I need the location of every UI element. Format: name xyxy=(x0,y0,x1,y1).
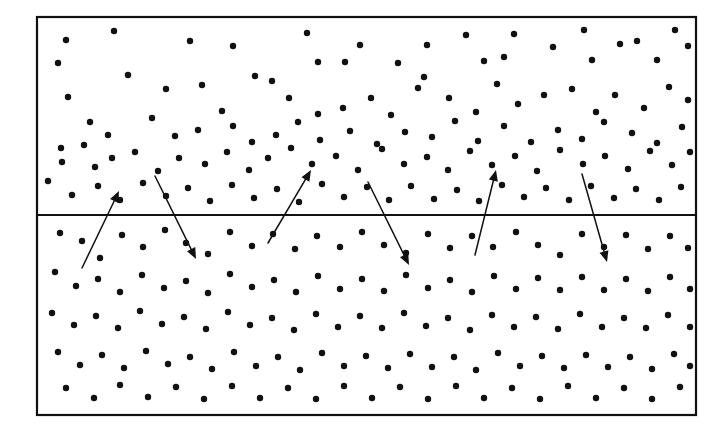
particle-dot xyxy=(539,353,545,359)
particle-dot xyxy=(666,84,672,90)
particle-dot xyxy=(95,276,101,282)
particle-dot xyxy=(271,277,277,283)
particle-dot xyxy=(541,92,547,98)
particle-dot xyxy=(285,385,291,391)
particle-dot xyxy=(671,351,677,357)
particle-dot xyxy=(181,314,187,320)
particle-dot xyxy=(579,136,585,142)
particle-dot xyxy=(445,167,451,173)
particle-dot xyxy=(685,245,691,251)
particle-dot xyxy=(656,197,662,203)
particle-dot xyxy=(202,161,208,167)
particle-dot xyxy=(172,133,178,139)
particle-dot xyxy=(73,283,79,289)
particle-dot xyxy=(297,367,303,373)
particle-dot xyxy=(429,134,435,140)
particle-dot xyxy=(447,245,453,251)
particle-dot xyxy=(423,323,429,329)
particle-dot xyxy=(581,27,587,33)
particle-dot xyxy=(687,149,693,155)
particle-dot xyxy=(407,351,413,357)
particle-dot xyxy=(447,277,453,283)
particle-dot xyxy=(291,327,297,333)
particle-dot xyxy=(69,192,75,198)
particle-dot xyxy=(388,112,394,118)
particle-dot xyxy=(431,196,437,202)
particle-dot xyxy=(249,243,255,249)
particle-dot xyxy=(275,354,281,360)
particle-dot xyxy=(109,155,115,161)
particle-dot xyxy=(205,251,211,257)
particle-dot xyxy=(225,309,231,315)
particle-dot xyxy=(565,383,571,389)
particle-dot xyxy=(533,314,539,320)
particle-dot xyxy=(617,41,623,47)
particle-dot xyxy=(577,311,583,317)
particle-dot xyxy=(579,231,585,237)
particle-dot xyxy=(63,385,69,391)
particle-dot xyxy=(677,384,683,390)
particle-dot xyxy=(623,232,629,238)
particle-dot xyxy=(229,383,235,389)
particle-dot xyxy=(79,238,85,244)
particle-dot xyxy=(224,149,230,155)
particle-dot xyxy=(580,161,586,167)
particle-dot xyxy=(269,315,275,321)
particle-dot xyxy=(57,230,63,236)
particle-dot xyxy=(425,396,431,402)
particle-dot xyxy=(139,272,145,278)
particle-dot xyxy=(557,252,563,258)
particle-dot xyxy=(621,385,627,391)
particle-dot xyxy=(557,287,563,293)
particle-dot xyxy=(481,395,487,401)
particle-dot xyxy=(424,154,430,160)
particle-dot xyxy=(286,95,292,101)
particle-dot xyxy=(588,183,594,189)
particle-dot xyxy=(678,184,684,190)
particle-dot xyxy=(149,115,155,121)
particle-dot xyxy=(499,182,505,188)
particle-dot xyxy=(333,153,339,159)
particle-dot xyxy=(537,396,543,402)
particle-dot xyxy=(599,324,605,330)
particle-dot xyxy=(415,85,421,91)
particle-dot xyxy=(513,286,519,292)
particle-dot xyxy=(257,395,263,401)
particle-dot xyxy=(117,289,123,295)
particle-dot xyxy=(199,82,205,88)
particle-dot xyxy=(517,363,523,369)
particle-dot xyxy=(687,324,693,330)
particle-dot xyxy=(315,59,321,65)
particle-dot xyxy=(561,365,567,371)
particle-dot xyxy=(605,364,611,370)
particle-dot xyxy=(521,194,527,200)
particle-dot xyxy=(363,353,369,359)
particle-dot xyxy=(143,348,149,354)
particle-dot xyxy=(93,313,99,319)
particle-dot xyxy=(251,195,257,201)
particle-dot xyxy=(91,395,97,401)
particle-dot xyxy=(183,278,189,284)
particle-dot xyxy=(535,275,541,281)
particle-dot xyxy=(687,363,693,369)
particle-dot xyxy=(454,187,460,193)
particle-dot xyxy=(403,272,409,278)
particle-dot xyxy=(314,233,320,239)
particle-dot xyxy=(140,180,146,186)
particle-dot xyxy=(81,142,87,148)
particle-dot xyxy=(679,124,685,130)
particle-dot xyxy=(317,137,323,143)
particle-dot xyxy=(446,95,452,101)
particle-dot xyxy=(489,162,495,168)
particle-dot xyxy=(509,385,515,391)
particle-dot xyxy=(501,54,507,60)
particle-dot xyxy=(187,354,193,360)
particle-dot xyxy=(401,161,407,167)
particle-dot xyxy=(99,352,105,358)
particle-dot xyxy=(489,312,495,318)
particle-dot xyxy=(246,167,252,173)
particle-dot xyxy=(227,271,233,277)
particle-dot xyxy=(649,366,655,372)
particle-dot xyxy=(230,43,236,49)
particle-dot xyxy=(247,322,253,328)
